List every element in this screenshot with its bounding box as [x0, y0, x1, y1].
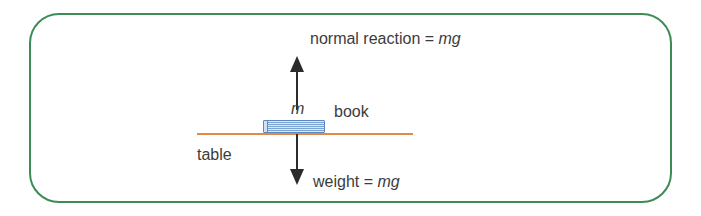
figure-root: normal reaction = mg m book table weight…	[0, 0, 701, 216]
diagram-frame	[29, 13, 672, 203]
